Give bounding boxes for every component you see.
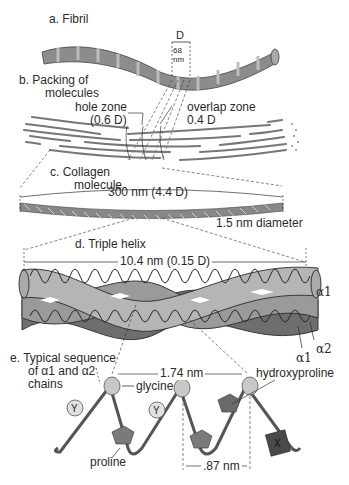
molecule-length: 300 nm (4.4 D): [108, 186, 188, 199]
hydroxyproline-residue: [218, 394, 240, 412]
period-unit: nm: [173, 56, 184, 64]
x-marker: X: [274, 437, 281, 450]
spacing-small: .87 nm: [201, 460, 242, 473]
chain-label-alpha2: α2: [316, 343, 332, 356]
hole-zone-value: (0.6 D): [90, 114, 127, 127]
proline-residue-1: [112, 426, 134, 444]
glycine-residue-1: [104, 377, 120, 395]
hydroxyproline-label: hydroxyproline: [256, 367, 334, 380]
chain-label-alpha1-bottom: α1: [296, 352, 312, 365]
panel-a-title: a. Fibril: [49, 13, 88, 26]
overlap-zone-value: 0.4 D: [187, 114, 216, 127]
y-marker-1: Y: [71, 402, 78, 415]
glycine-label: glycine: [136, 380, 173, 393]
proline-residue-2: [190, 430, 212, 448]
helix-pitch: 10.4 nm (0.15 D): [118, 255, 212, 268]
molecule-packing: [24, 117, 286, 160]
proline-label: proline: [90, 456, 126, 469]
chain-label-alpha1-top: α1: [316, 286, 332, 299]
y-marker-2: Y: [153, 404, 160, 417]
glycine-residue-2: [174, 379, 190, 397]
panel-b-title-2: molecules: [45, 87, 99, 100]
molecule-diameter: 1.5 nm diameter: [216, 217, 303, 230]
panel-d-title: d. Triple helix: [75, 238, 146, 251]
period-value: 68: [173, 47, 182, 55]
panel-e-title-3: chains: [28, 378, 63, 391]
period-label: D: [176, 29, 184, 42]
